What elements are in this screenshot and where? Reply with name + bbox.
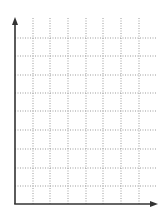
y-axis-arrow-icon: [12, 17, 18, 25]
gridlines: [15, 18, 157, 204]
x-axis-arrow-icon: [150, 201, 158, 207]
empty-graph-grid: [0, 0, 167, 212]
